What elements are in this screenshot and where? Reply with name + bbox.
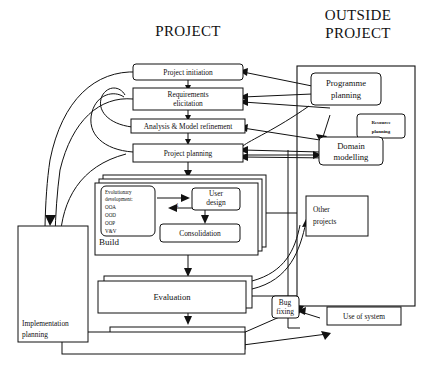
label-project-initiation: Project initiation (163, 68, 213, 77)
conn-domain-to-analysis (243, 128, 320, 140)
label-domain-line1: Domain (337, 141, 365, 151)
label-evo-item3: OOP (105, 220, 115, 226)
label-use-of-system: Use of system (343, 312, 385, 321)
box-other-projects[interactable] (306, 196, 368, 236)
label-analysis: Analysis & Model refinement (144, 122, 233, 131)
conn-planning-to-requirements (91, 94, 133, 152)
box-resource-planning[interactable] (357, 114, 405, 138)
label-evo-line2: development: (105, 196, 133, 202)
label-requirements-line2: elicitation (173, 99, 203, 108)
label-evo-item1: OOA (105, 204, 116, 210)
label-consolidation: Consolidation (179, 229, 221, 238)
conn-delivery-to-use (243, 334, 327, 345)
conn-programme-to-initiation (243, 72, 312, 86)
label-evo-line1: Evolutionary (105, 189, 132, 195)
conn-domain-to-planning-a (243, 150, 320, 152)
title-outside-line1: OUTSIDE (325, 7, 391, 23)
label-evo-item2: OOD (105, 212, 116, 218)
label-other-line2: projects (313, 217, 337, 226)
label-build: Build (99, 237, 120, 247)
label-other-line1: Other (313, 205, 330, 214)
box-delivery[interactable] (62, 332, 245, 354)
label-requirements-line1: Requirements (167, 90, 208, 99)
label-domain-line2: modelling (334, 152, 370, 162)
label-bug-line1: Bug (279, 298, 292, 307)
diagram-canvas: PROJECT OUTSIDE PROJECT (0, 0, 428, 371)
label-loop-marker: 1 (176, 202, 179, 208)
arrow-into-implementation (45, 215, 56, 226)
label-bug-line2: fixing (276, 307, 294, 316)
label-project-planning: Project planning (164, 149, 213, 158)
conn-programme-to-requirements-a (243, 94, 312, 97)
label-user-design-line2: design (206, 198, 226, 207)
arrow-delivery-use (321, 331, 331, 340)
label-implementation-line2: planning (22, 330, 48, 339)
label-programme-line1: Programme (326, 78, 366, 88)
label-programme-line2: planning (331, 90, 362, 100)
conn-programme-curve (243, 106, 309, 146)
arrow-evaluation-delivery (184, 316, 192, 325)
label-evaluation: Evaluation (153, 292, 191, 302)
label-evo-item4: V&V (105, 228, 117, 234)
label-resource-line1: Resource (371, 120, 391, 125)
label-implementation-line1: Implementation (22, 319, 69, 328)
label-resource-line2: planning (372, 129, 391, 134)
title-project: PROJECT (155, 23, 220, 39)
title-outside-line2: PROJECT (325, 25, 390, 41)
process-diagram: PROJECT OUTSIDE PROJECT (0, 0, 428, 371)
label-user-design-line1: User (209, 189, 223, 198)
